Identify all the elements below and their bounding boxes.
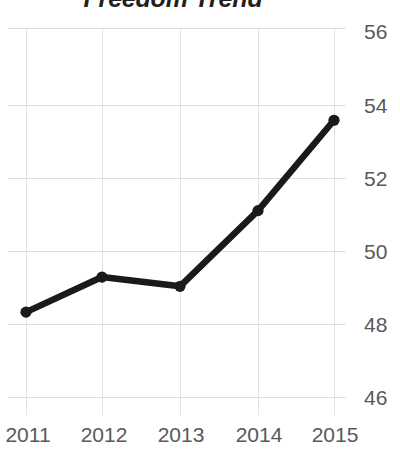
x-axis-tick-label: 2015 xyxy=(312,424,359,446)
data-point xyxy=(174,281,185,292)
plot-area xyxy=(0,0,400,452)
y-axis-tick-label: 46 xyxy=(364,387,387,408)
x-axis-tick-label: 2012 xyxy=(81,424,128,446)
data-point xyxy=(328,115,339,126)
data-point xyxy=(96,271,107,282)
x-axis-tick-label: 2014 xyxy=(236,424,283,446)
x-axis-tick-label: 2013 xyxy=(158,424,205,446)
y-axis-tick-label: 54 xyxy=(364,95,387,116)
data-point xyxy=(20,307,31,318)
x-axis-tick-label: 2011 xyxy=(5,424,50,446)
data-point xyxy=(252,205,263,216)
y-axis-tick-label: 50 xyxy=(364,241,387,262)
y-axis-tick-label: 48 xyxy=(364,314,387,335)
y-axis-tick-label: 52 xyxy=(364,168,387,189)
series-markers xyxy=(20,115,339,318)
chart-container: Freedom Trend 56 54 52 50 48 46 2011 201… xyxy=(0,0,400,452)
y-axis-tick-label: 56 xyxy=(364,21,387,42)
data-series-freedom-trend xyxy=(0,0,400,452)
